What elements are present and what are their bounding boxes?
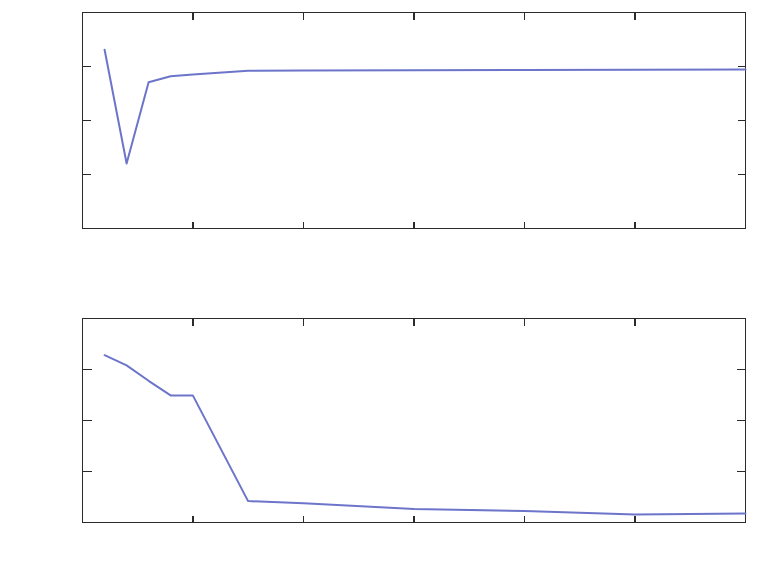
- y-axis-major-ticks-bottom: [83, 319, 746, 523]
- cv-plot: [0, 291, 763, 582]
- axes-frame-bottom: [83, 319, 746, 523]
- series-line: [105, 355, 746, 514]
- axes-frame-top: [83, 13, 746, 229]
- x-axis-ticks-bottom: [83, 319, 746, 523]
- series-mean-log-likelihood: [105, 50, 746, 164]
- chart-panel-mean-log-likelihood: [0, 0, 763, 291]
- series-cv: [105, 355, 746, 514]
- y-axis-ticks-top: [83, 13, 746, 229]
- series-line: [105, 50, 746, 164]
- mean-log-likelihood-plot: [0, 0, 763, 291]
- x-axis-ticks-top: [83, 13, 746, 229]
- chart-panel-cv: [0, 291, 763, 582]
- figure-container: [0, 0, 763, 582]
